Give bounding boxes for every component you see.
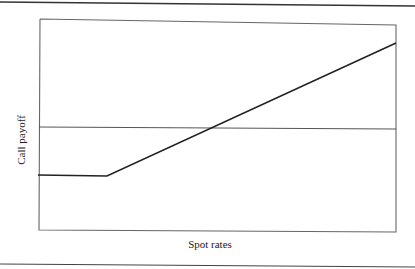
zero-payoff-line <box>39 127 396 129</box>
top-rule <box>0 2 415 6</box>
bottom-rule <box>0 264 415 267</box>
x-axis-label: Spot rates <box>140 238 280 250</box>
call-payoff-line <box>38 43 396 176</box>
chart-canvas <box>0 0 415 269</box>
y-axis-label: Call payoff <box>15 110 35 170</box>
